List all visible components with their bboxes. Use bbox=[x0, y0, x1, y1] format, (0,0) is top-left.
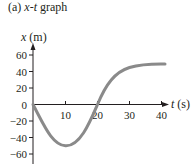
svg-text:−20: −20 bbox=[10, 115, 28, 127]
svg-text:−40: −40 bbox=[10, 132, 28, 144]
x-ticks bbox=[66, 101, 162, 105]
svg-text:40: 40 bbox=[16, 66, 28, 78]
svg-text:20: 20 bbox=[16, 82, 28, 94]
y-tick-labels: 60 40 20 0 −20 −40 −60 bbox=[10, 49, 28, 160]
x-tick-labels: 10 20 30 40 bbox=[60, 109, 168, 121]
y-axis-arrow-icon bbox=[31, 43, 36, 50]
svg-text:40: 40 bbox=[156, 109, 168, 121]
y-axis-label: x(m) bbox=[20, 30, 47, 44]
svg-text:60: 60 bbox=[16, 49, 28, 61]
svg-text:0: 0 bbox=[22, 99, 28, 111]
x-axis-arrow-icon bbox=[162, 102, 169, 107]
svg-text:30: 30 bbox=[124, 109, 136, 121]
xt-graph: x(m) t(s) 60 40 20 0 −20 −40 −60 10 20 3… bbox=[0, 0, 191, 168]
svg-text:−60: −60 bbox=[10, 148, 28, 160]
x-axis-label: t(s) bbox=[171, 97, 190, 111]
svg-text:10: 10 bbox=[60, 109, 72, 121]
